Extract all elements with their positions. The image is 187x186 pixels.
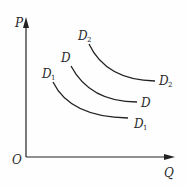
diagram-svg: P Q O D 2 D 2 D D D 1 D 1	[0, 0, 187, 186]
svg-text:1: 1	[143, 124, 147, 132]
demand-shift-diagram: P Q O D 2 D 2 D D D 1 D 1	[0, 0, 187, 186]
label-d2-end: D 2	[158, 74, 172, 89]
svg-text:2: 2	[168, 81, 172, 89]
svg-text:1: 1	[51, 74, 55, 82]
svg-text:2: 2	[87, 36, 91, 44]
label-d-end: D	[140, 96, 151, 110]
svg-text:D: D	[140, 96, 151, 110]
x-axis-label: Q	[164, 166, 174, 180]
origin-label: O	[12, 153, 22, 167]
curve-d2	[89, 44, 155, 81]
label-d1-end: D 1	[133, 117, 147, 132]
label-d2-start: D 2	[77, 29, 91, 44]
label-d-start: D	[60, 51, 71, 65]
svg-text:D: D	[60, 51, 71, 65]
label-d1-start: D 1	[41, 67, 55, 82]
curve-d	[71, 66, 137, 102]
x-axis-arrow-icon	[164, 154, 175, 160]
y-axis-arrow-icon	[23, 17, 29, 28]
y-axis-label: P	[14, 16, 24, 30]
